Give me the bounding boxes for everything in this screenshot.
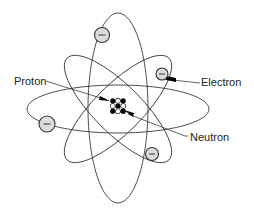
- proton-arrowhead: [99, 96, 110, 101]
- electron-bottom: [146, 148, 159, 161]
- proton-leader-line: [46, 81, 104, 99]
- proton-particle: [121, 109, 126, 114]
- proton-particle: [110, 109, 115, 114]
- proton-particle: [110, 98, 115, 103]
- neutron-particle: [115, 109, 120, 114]
- electron-top: [95, 28, 110, 43]
- electron-leader-line: [172, 80, 200, 83]
- proton-label: Proton: [14, 75, 46, 87]
- neutron-particle: [115, 98, 120, 103]
- electron-right: [156, 68, 168, 80]
- electron-label: Electron: [201, 76, 241, 88]
- neutron-particle: [121, 103, 126, 108]
- electron-left: [39, 116, 55, 132]
- neutron-particle: [110, 103, 115, 108]
- neutron-label: Neutron: [190, 131, 229, 143]
- proton-particle: [121, 98, 126, 103]
- nucleus: [110, 98, 126, 114]
- proton-particle: [115, 103, 120, 108]
- atom-diagram: Proton Electron Neutron: [0, 0, 254, 214]
